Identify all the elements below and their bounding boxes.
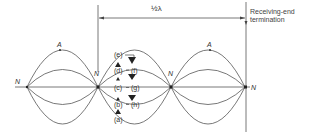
phase-label-a: (a) <box>114 116 123 124</box>
half-wavelength-label: ½λ <box>151 5 162 13</box>
phase-label-h: (h) <box>131 101 140 109</box>
node-dot <box>170 86 173 89</box>
termination-label: Receiving-end termination <box>250 8 295 24</box>
termination-label-line1: Receiving-end <box>250 8 295 16</box>
up-arrow-icon <box>115 109 121 114</box>
antinode-dot <box>59 49 61 51</box>
termination-label-line2: termination <box>250 16 295 24</box>
antinode-label: A <box>57 41 62 49</box>
node-label: N <box>251 84 256 92</box>
node-label: N <box>94 70 99 78</box>
phase-label-g: (g) <box>131 84 140 92</box>
phase-label-e: (e) <box>114 51 123 59</box>
phase-label-c: (c) <box>114 84 122 92</box>
node-label: N <box>15 78 20 86</box>
phase-label-d: (d) <box>114 67 123 75</box>
arrowhead-right-icon <box>240 17 245 20</box>
antinode-dot <box>209 49 211 51</box>
termination-arrow-icon <box>245 21 248 25</box>
node-label: N <box>168 70 173 78</box>
down-arrow-icon <box>128 57 136 64</box>
phase-label-b: (b) <box>114 101 123 109</box>
node-dot <box>97 86 100 89</box>
arrowhead-left-icon <box>99 17 104 20</box>
phase-label-f: (f) <box>131 67 138 75</box>
antinode-label: A <box>207 41 212 49</box>
up-arrow-icon <box>116 77 120 81</box>
node-dot <box>26 86 28 88</box>
node-dot <box>244 86 247 89</box>
up-arrow-icon <box>116 97 120 101</box>
